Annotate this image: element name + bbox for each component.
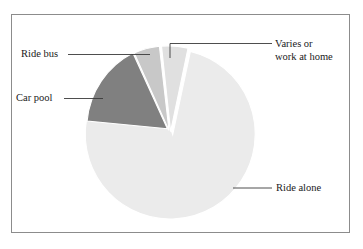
pie-label-ride-alone: Ride alone	[276, 182, 321, 195]
pie-label-varies-or-work-at-home: Varies or work at home	[275, 38, 333, 63]
pie-label-varies-line2: work at home	[275, 51, 333, 64]
pie-label-ride-bus: Ride bus	[21, 48, 58, 61]
pie-chart-figure: Ride bus Car pool Varies or work at home…	[0, 0, 363, 249]
pie-label-varies-line1: Varies or	[275, 38, 333, 51]
pie-label-car-pool: Car pool	[16, 92, 52, 105]
